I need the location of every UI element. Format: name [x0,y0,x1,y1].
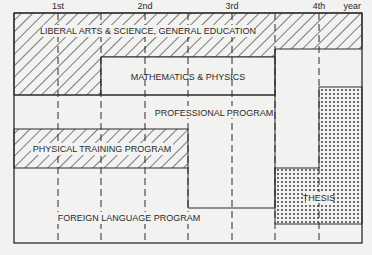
year-label-4th: 4th [313,1,326,11]
math-physics-label: MATHEMATICS & PHYSICS [131,72,246,82]
physical-training-label: PHYSICAL TRAINING PROGRAM [33,144,172,154]
liberal-arts-label: LIBERAL ARTS & SCIENCE, GENERAL EDUCATIO… [40,26,256,36]
professional-label: PROFESSIONAL PROGRAM [155,108,274,118]
year-label-unit: year [343,1,361,11]
foreign-language-label: FOREIGN LANGUAGE PROGRAM [58,213,201,223]
year-label-2nd: 2nd [137,1,152,11]
year-label-1st: 1st [52,1,65,11]
year-label-3rd: 3rd [225,1,238,11]
thesis-label: THESIS [303,193,336,203]
curriculum-diagram: 1st 2nd 3rd 4th year LIBERAL ARTS & SCIE… [0,0,372,255]
